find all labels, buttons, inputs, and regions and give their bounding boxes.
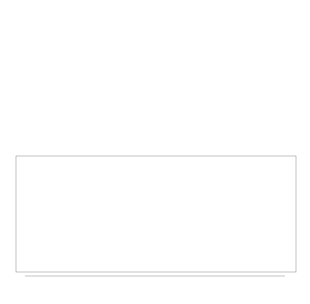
figure-canvas bbox=[0, 0, 310, 304]
plot-frame bbox=[16, 156, 296, 272]
barcode-plot bbox=[16, 156, 296, 276]
